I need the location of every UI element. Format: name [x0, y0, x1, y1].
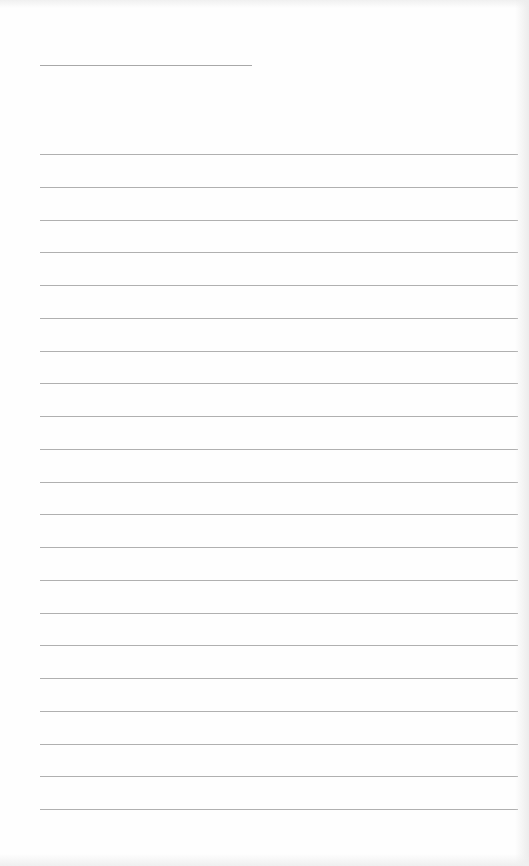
ruled-line	[40, 154, 518, 155]
ruled-line	[40, 776, 518, 777]
ruled-line	[40, 416, 518, 417]
page-right-shadow	[515, 0, 529, 866]
ruled-line	[40, 482, 518, 483]
ruled-line	[40, 678, 518, 679]
ruled-line	[40, 383, 518, 384]
ruled-line	[40, 351, 518, 352]
ruled-line	[40, 809, 518, 810]
ruled-line	[40, 449, 518, 450]
lined-paper-page	[0, 0, 529, 866]
ruled-line	[40, 252, 518, 253]
ruled-line	[40, 580, 518, 581]
ruled-line	[40, 514, 518, 515]
page-bottom-shadow	[0, 854, 529, 866]
ruled-line	[40, 744, 518, 745]
ruled-line	[40, 711, 518, 712]
ruled-line	[40, 220, 518, 221]
ruled-line	[40, 613, 518, 614]
title-line	[40, 65, 252, 66]
ruled-line	[40, 187, 518, 188]
ruled-line	[40, 285, 518, 286]
ruled-line	[40, 547, 518, 548]
ruled-line	[40, 645, 518, 646]
ruled-line	[40, 318, 518, 319]
page-top-shadow	[0, 0, 529, 8]
